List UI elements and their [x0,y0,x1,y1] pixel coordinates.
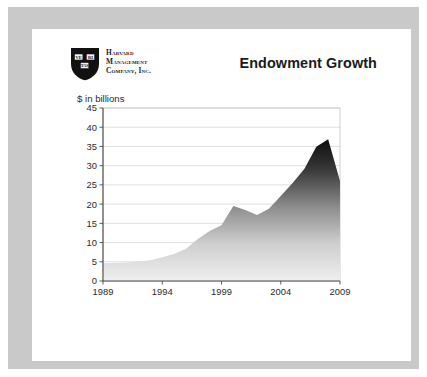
logo-line-management: Management [106,57,151,66]
x-tick-2004: 2004 [270,286,291,297]
y-axis-tick-labels: 051015202530354045 [87,102,97,286]
endowment-growth-chart: $ in billions [32,87,411,361]
y-tick-35: 35 [87,141,97,152]
logo-line-company: Company, Inc. [106,66,151,75]
area-series-endowment-value [103,139,340,281]
y-tick-10: 10 [87,237,97,248]
logo-wordmark: Harvard Management Company, Inc. [106,47,151,75]
svg-text:TAS: TAS [81,63,90,68]
slide-panel: VE RI TAS Harvard Management Company, In… [32,29,411,361]
svg-text:RI: RI [88,55,93,60]
y-tick-5: 5 [92,256,97,267]
x-axis-tick-labels: 19891994199920042009 [93,286,351,297]
y-tick-0: 0 [92,275,97,286]
y-tick-25: 25 [87,179,97,190]
y-tick-15: 15 [87,218,97,229]
x-tick-2009: 2009 [330,286,351,297]
y-tick-45: 45 [87,102,97,113]
logo-line-harvard: Harvard [106,48,151,57]
x-tick-1994: 1994 [152,286,173,297]
harvard-shield-icon: VE RI TAS [70,47,100,81]
x-tick-1999: 1999 [211,286,232,297]
slide-frame-border: VE RI TAS Harvard Management Company, In… [8,7,419,369]
y-tick-40: 40 [87,122,97,133]
harvard-management-company-logo: VE RI TAS Harvard Management Company, In… [70,47,151,81]
page-title: Endowment Growth [239,55,377,71]
y-tick-20: 20 [87,199,97,210]
chart-canvas: 051015202530354045 19891994199920042009 [32,87,411,361]
svg-text:VE: VE [76,55,82,60]
y-tick-30: 30 [87,160,97,171]
slide: VE RI TAS Harvard Management Company, In… [0,0,427,377]
x-tick-1989: 1989 [93,286,114,297]
slide-header: VE RI TAS Harvard Management Company, In… [32,29,411,89]
